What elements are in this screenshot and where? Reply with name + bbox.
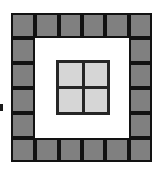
ring-tile-top-3 bbox=[59, 13, 82, 38]
ring-tile-right-3 bbox=[129, 63, 152, 88]
ring-tile-bottom-3 bbox=[59, 138, 82, 162]
ring-tile-top-2 bbox=[35, 13, 59, 38]
ring-tile-left-3 bbox=[11, 63, 35, 88]
ring-tile-bottom-2 bbox=[35, 138, 59, 162]
ring-tile-left-4 bbox=[11, 88, 35, 113]
ring-tile-bottom-5 bbox=[105, 138, 129, 162]
ring-tile-left-2 bbox=[11, 38, 35, 63]
ring-tile-right-4 bbox=[129, 88, 152, 113]
ring-tile-top-6 bbox=[129, 13, 152, 38]
inner-tile-bottom-right bbox=[85, 89, 108, 112]
left-edge-tick bbox=[0, 104, 3, 111]
inner-tile-top-right bbox=[85, 63, 108, 86]
diagram-canvas bbox=[0, 0, 164, 174]
ring-tile-bottom-4 bbox=[82, 138, 105, 162]
ring-tile-top-4 bbox=[82, 13, 105, 38]
ring-tile-top-1 bbox=[11, 13, 35, 38]
ring-tile-left-5 bbox=[11, 113, 35, 138]
ring-tile-right-2 bbox=[129, 38, 152, 63]
inner-tile-top-left bbox=[59, 63, 82, 86]
ring-tile-bottom-1 bbox=[11, 138, 35, 162]
inner-tile-grid bbox=[56, 60, 110, 115]
ring-tile-top-5 bbox=[105, 13, 129, 38]
ring-tile-bottom-6 bbox=[129, 138, 152, 162]
inner-tile-bottom-left bbox=[59, 89, 82, 112]
ring-tile-right-5 bbox=[129, 113, 152, 138]
